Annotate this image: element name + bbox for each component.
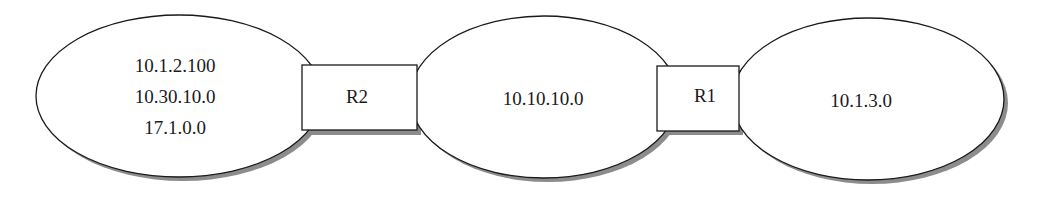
- network-right: 10.1.3.0: [732, 18, 1004, 180]
- network-left-label-1: 10.1.2.100: [135, 55, 216, 76]
- network-middle-label: 10.10.10.0: [503, 88, 584, 109]
- network-left: 10.1.2.100 10.30.10.0 17.1.0.0: [36, 15, 322, 177]
- network-middle: 10.10.10.0: [410, 16, 678, 178]
- router-r2-label: R2: [346, 86, 368, 107]
- network-left-label-3: 17.1.0.0: [144, 117, 206, 138]
- router-r1: R1: [657, 66, 739, 131]
- router-r1-label: R1: [694, 85, 716, 106]
- network-left-label-2: 10.30.10.0: [135, 86, 216, 107]
- network-diagram: 10.1.2.100 10.30.10.0 17.1.0.0 10.10.10.…: [0, 0, 1044, 197]
- router-r2: R2: [302, 65, 417, 130]
- network-right-label: 10.1.3.0: [830, 90, 892, 111]
